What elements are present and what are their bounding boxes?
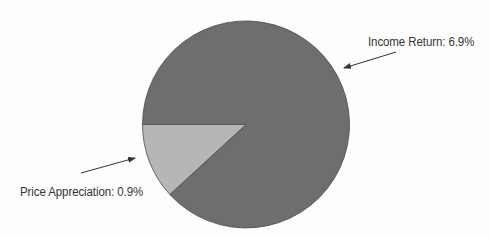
price-callout-arrow [81, 158, 135, 173]
income-callout-arrow [344, 52, 396, 68]
price-appreciation-label: Price Appreciation: 0.9% [20, 185, 143, 199]
income-return-label: Income Return: 6.9% [368, 35, 474, 49]
chart-canvas: Income Return: 6.9% Price Appreciation: … [0, 0, 490, 237]
